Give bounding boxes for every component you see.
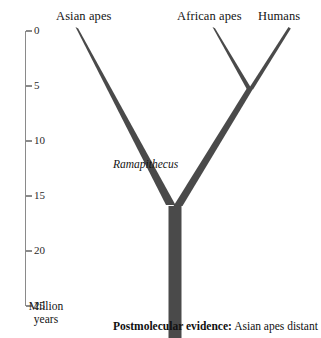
branch-asian-apes xyxy=(76,27,176,205)
axis-tick-label-15: 15 xyxy=(34,190,45,201)
branch-root-trunk xyxy=(169,206,182,338)
branch-african-apes xyxy=(213,27,253,90)
axis-tick-label-10: 10 xyxy=(34,135,45,146)
caption-rest: Asian apes distant xyxy=(232,320,318,332)
branch-african-human-stem xyxy=(174,87,253,207)
node-label-ramapithecus: Ramapithecus xyxy=(113,158,178,170)
time-axis xyxy=(26,31,33,306)
axis-tick-label-20: 20 xyxy=(34,245,45,256)
tip-label-african-apes: African apes xyxy=(177,10,242,23)
tip-label-asian-apes: Asian apes xyxy=(56,10,112,23)
phylogenetic-tree-figure: 0 5 10 15 20 25 Million years Asian apes… xyxy=(0,0,321,338)
axis-title-line-1: Million xyxy=(15,300,77,313)
branch-humans xyxy=(248,27,291,90)
tip-label-humans: Humans xyxy=(258,10,300,23)
caption-lead: Postmolecular evidence: xyxy=(113,320,232,332)
axis-title: Million years xyxy=(15,300,77,326)
axis-tick-label-0: 0 xyxy=(34,25,40,36)
axis-tick-label-5: 5 xyxy=(34,80,40,91)
axis-title-line-2: years xyxy=(15,313,77,326)
figure-caption: Postmolecular evidence: Asian apes dista… xyxy=(113,320,318,333)
tree-branches xyxy=(76,27,291,338)
